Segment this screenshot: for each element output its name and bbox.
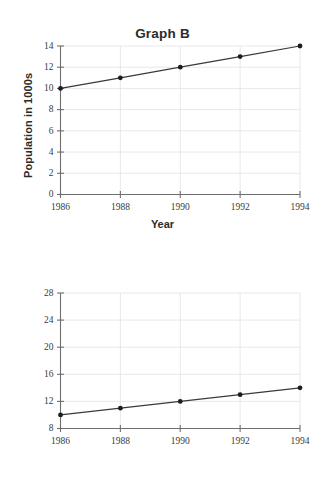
data-point <box>298 44 303 49</box>
x-tick-label: 1992 <box>231 436 250 446</box>
y-tick-label: 14 <box>44 41 54 51</box>
data-point <box>118 406 123 411</box>
data-point <box>58 413 63 418</box>
y-tick-label: 28 <box>44 288 54 298</box>
tick-labels-graph-b: 0246810121419861988199019921994 <box>44 41 310 212</box>
x-tick-label: 1986 <box>51 202 70 212</box>
data-point <box>298 385 303 390</box>
x-tick-label: 1986 <box>51 436 70 446</box>
data-point <box>238 392 243 397</box>
x-tick-label: 1994 <box>291 436 310 446</box>
y-tick-label: 0 <box>49 189 54 199</box>
x-tick-label: 1990 <box>171 202 190 212</box>
y-tick-label: 2 <box>49 168 54 178</box>
x-tick-label: 1988 <box>111 202 130 212</box>
y-tick-label: 20 <box>44 342 54 352</box>
x-tick-label: 1992 <box>231 202 250 212</box>
data-point <box>58 86 63 91</box>
data-point <box>238 54 243 59</box>
chart-graph-b: Graph B Population in 1000s Year 0246810… <box>0 0 325 246</box>
data-point <box>178 399 183 404</box>
x-tick-label: 1994 <box>291 202 310 212</box>
y-tick-label: 8 <box>49 423 54 433</box>
plot-area-graph-b: 0246810121419861988199019921994 <box>0 0 325 246</box>
x-tick-label: 1990 <box>171 436 190 446</box>
x-tick-label: 1988 <box>111 436 130 446</box>
y-tick-label: 10 <box>44 83 54 93</box>
tick-labels-graph-c: 8121620242819861988199019921994 <box>44 288 310 446</box>
data-point <box>178 65 183 70</box>
chart-graph-c: Graph C Population in 1000s Year 8121620… <box>0 246 325 493</box>
gridlines-graph-c <box>61 293 301 429</box>
y-tick-label: 4 <box>49 147 54 157</box>
data-point <box>118 75 123 80</box>
y-tick-label: 12 <box>44 396 54 406</box>
y-tick-label: 8 <box>49 104 54 114</box>
y-tick-label: 12 <box>44 62 54 72</box>
y-tick-label: 16 <box>44 369 54 379</box>
y-tick-label: 6 <box>49 126 54 136</box>
plot-area-graph-c: 8121620242819861988199019921994 <box>0 246 325 493</box>
y-tick-label: 24 <box>44 315 54 325</box>
